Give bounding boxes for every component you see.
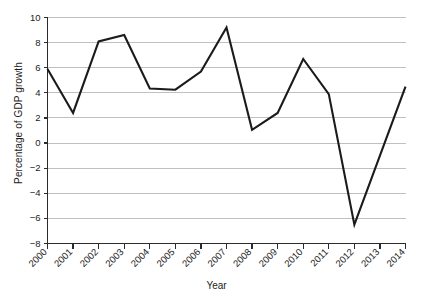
x-tick-label: 2000 (26, 246, 49, 269)
x-tick-label: 2002 (77, 246, 100, 269)
y-tick-label: 2 (35, 112, 40, 123)
x-tick-label: 2014 (384, 246, 407, 269)
x-axis-tick-labels: 2000200120022003200420052006200720082009… (26, 246, 407, 269)
x-tick-label: 2010 (282, 246, 305, 269)
gdp-growth-line-chart: Percentage of GDP growth −8−6−4−20246810… (0, 0, 433, 300)
y-tick-label: −8 (30, 238, 41, 249)
x-tick-label: 2003 (103, 246, 126, 269)
x-tick-label: 2012 (333, 246, 356, 269)
y-tick-label: −2 (30, 162, 41, 173)
gdp-growth-line (48, 28, 406, 225)
y-tick-label: 10 (30, 12, 41, 23)
x-tick-label: 2005 (154, 246, 177, 269)
y-tick-label: 4 (35, 87, 40, 98)
x-tick-label: 2009 (256, 246, 279, 269)
x-tick-label: 2008 (231, 246, 254, 269)
x-tick-label: 2013 (359, 246, 382, 269)
chart-plot-area: −8−6−4−20246810 200020012002200320042005… (0, 0, 433, 300)
x-tick-label: 2007 (205, 246, 228, 269)
gridlines (48, 18, 406, 219)
x-tick-label: 2006 (180, 246, 203, 269)
y-axis-tick-labels: −8−6−4−20246810 (30, 12, 41, 249)
y-tick-label: 6 (35, 62, 40, 73)
y-tick-label: 8 (35, 37, 40, 48)
y-tick-label: 0 (35, 137, 40, 148)
x-tick-label: 2001 (52, 246, 75, 269)
y-tick-label: −4 (30, 187, 41, 198)
x-axis-title: Year (0, 280, 433, 292)
x-tick-label: 2011 (308, 246, 330, 268)
x-tick-label: 2004 (128, 246, 151, 269)
data-series-line (48, 28, 406, 225)
y-tick-label: −6 (30, 212, 41, 223)
